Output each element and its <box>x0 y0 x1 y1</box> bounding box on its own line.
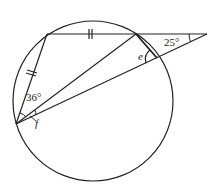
angle-label-f: f <box>35 117 40 129</box>
angle-label-a: 36° <box>26 91 41 103</box>
angle-arc-d-f <box>35 110 36 115</box>
angle-arc-d-36 <box>20 113 26 117</box>
angle-arc-p <box>189 34 191 42</box>
angle-label-p: 25° <box>164 36 179 48</box>
circle-diagram: 25° e 36° f <box>0 0 217 190</box>
equal-tick-ad <box>26 70 37 76</box>
angle-label-e: e <box>138 50 143 62</box>
chord-ad <box>16 34 47 124</box>
